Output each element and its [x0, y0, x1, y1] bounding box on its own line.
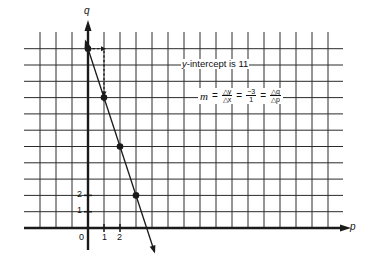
intercept-text: -intercept is 11	[187, 58, 249, 69]
y-tick-label-1: 1	[77, 206, 82, 215]
delta-y: △y	[222, 88, 233, 96]
line-graph	[0, 0, 366, 267]
fraction-dq-dp: △q △p	[270, 88, 281, 104]
fraction-rise-run: −3 1	[246, 88, 256, 104]
x-tick-label-2: 2	[117, 233, 122, 242]
delta-p: △p	[270, 96, 281, 103]
origin-label: 0	[79, 233, 84, 242]
axes	[24, 20, 351, 250]
rise-value: −3	[246, 88, 256, 96]
y-axis-label: q	[84, 6, 90, 16]
x-axis-label: p	[350, 222, 356, 232]
equals-1: =	[212, 90, 218, 101]
x-tick-label-1: 1	[102, 233, 107, 242]
y-intercept-annotation: y-intercept is 11	[181, 59, 249, 69]
y-tick-label-2: 2	[77, 190, 82, 199]
run-value: 1	[248, 96, 254, 103]
slope-symbol: m	[200, 90, 208, 102]
equals-3: =	[260, 90, 266, 101]
delta-q: △q	[270, 88, 281, 96]
fraction-dy-dx: △y △x	[222, 88, 233, 104]
delta-x: △x	[222, 96, 233, 103]
slope-formula: m = △y △x = −3 1 = △q △p	[198, 88, 283, 104]
equals-2: =	[236, 90, 242, 101]
